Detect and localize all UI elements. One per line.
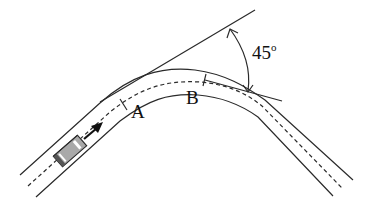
road-diagram [0,0,370,205]
road-centerline [28,82,342,188]
angle-arc [230,29,249,91]
degree-symbol: o [271,41,277,53]
label-point-b: B [186,88,199,107]
label-point-a: A [131,102,145,121]
label-angle: 45o [252,42,277,62]
diagram-canvas: A B 45o [0,0,370,205]
direction-arrow-icon [84,122,103,139]
angle-value: 45 [252,42,271,63]
road-outer-edge [20,69,353,180]
